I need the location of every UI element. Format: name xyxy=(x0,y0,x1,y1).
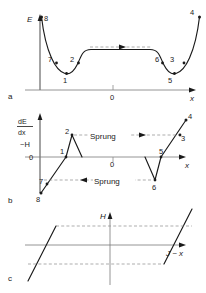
figure-container: E 8 7 1 2 6 3 5 4 0 x a Sprung Sprung xyxy=(0,0,206,293)
panel-a-letter: a xyxy=(8,92,13,101)
panel-a-point-2-marker xyxy=(77,62,80,65)
panel-b-y-tick-label-zero: 0 xyxy=(29,153,33,162)
panel-a-plateau-arrow xyxy=(119,45,126,50)
panel-c-x-axis-label: J ~ x xyxy=(165,249,184,258)
panel-b-point-label-4: 4 xyxy=(188,112,192,121)
panel-b-sprung-upper-arrow xyxy=(139,133,146,138)
panel-b-letter: b xyxy=(8,196,13,205)
panel-b-origin-label: 0 xyxy=(110,160,114,169)
panel-c-y-axis-arrowhead xyxy=(108,212,113,219)
panel-b-point-label-8: 8 xyxy=(36,195,40,204)
panel-c-left-flank xyxy=(28,226,56,281)
panel-b-point-label-1: 1 xyxy=(60,147,64,156)
panel-b-point-label-7: 7 xyxy=(39,177,43,186)
panel-b-point-2-marker xyxy=(71,134,74,137)
panel-c-letter: c xyxy=(8,274,12,283)
panel-b-y-axis-label-denominator: dx xyxy=(18,129,26,136)
panel-a-point-4-marker xyxy=(198,16,201,19)
panel-b-point-label-2: 2 xyxy=(65,127,69,136)
panel-a-point-label-3: 3 xyxy=(170,55,174,64)
panel-a-x-axis-label: x xyxy=(189,94,195,103)
panel-b-y-axis-arrowhead xyxy=(38,113,43,120)
panel-a-point-label-5: 5 xyxy=(168,76,172,85)
panel-a-point-label-8: 8 xyxy=(44,14,48,23)
panel-a-point-label-4: 4 xyxy=(190,8,194,17)
panel-a-point-label-6: 6 xyxy=(155,55,159,64)
panel-a-point-1-marker xyxy=(65,72,68,75)
panel-b-y-tick-label-h: ~H xyxy=(20,140,30,149)
panel-a-point-label-7: 7 xyxy=(48,55,52,64)
panel-b-y-axis-label-numerator: dE xyxy=(18,118,27,125)
panel-a-y-axis-label: E xyxy=(27,15,33,24)
panel-a-point-8-marker xyxy=(40,16,43,19)
panel-b-sprung-lower-label: Sprung xyxy=(94,177,120,186)
panel-b-point-label-6: 6 xyxy=(152,183,156,192)
panel-a-point-3-marker xyxy=(183,62,186,65)
panel-b-descending-branch xyxy=(145,120,186,180)
panel-c-x-axis-arrowhead xyxy=(179,243,186,248)
panel-b-point-1-marker xyxy=(65,156,68,159)
panel-b-point-label-3: 3 xyxy=(181,134,185,143)
panel-c: H J ~ x c xyxy=(8,209,192,285)
panel-a-origin-label: 0 xyxy=(110,93,114,102)
panel-b-point-7-marker xyxy=(46,183,49,186)
panel-a-x-axis-arrowhead xyxy=(189,88,196,93)
panel-c-y-axis-label: H xyxy=(100,212,106,221)
panel-a-point-label-2: 2 xyxy=(70,55,74,64)
panel-b-x-axis-label: x xyxy=(184,161,190,170)
panel-a-point-7-marker xyxy=(55,62,58,65)
panel-b-x-axis-arrowhead xyxy=(179,155,186,160)
figure-svg: E 8 7 1 2 6 3 5 4 0 x a Sprung Sprung xyxy=(0,0,206,293)
panel-b-sprung-upper-label: Sprung xyxy=(90,132,116,141)
panel-b-point-5-marker xyxy=(160,156,163,159)
panel-a: E 8 7 1 2 6 3 5 4 0 x a xyxy=(8,8,201,103)
panel-a-point-6-marker xyxy=(161,62,164,65)
panel-b-sprung-lower-arrow xyxy=(80,178,87,183)
panel-b-point-6-marker xyxy=(154,179,157,182)
panel-a-point-label-1: 1 xyxy=(63,76,67,85)
panel-b: Sprung Sprung dE dx ~H 0 8 7 1 2 3 4 5 6… xyxy=(8,112,192,205)
panel-a-point-5-marker xyxy=(173,72,176,75)
panel-b-point-label-5: 5 xyxy=(159,147,163,156)
